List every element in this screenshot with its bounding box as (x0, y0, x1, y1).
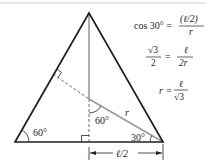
eq3-lhs: r = (159, 85, 172, 96)
eq2-lhs-denominator: 2 (151, 58, 156, 68)
equation-2: √3 2 = ℓ 2r (146, 45, 193, 68)
angle-arc-bottom-right (150, 136, 152, 143)
angle-arc-bottom-left (22, 130, 29, 142)
equation-3: r = ℓ √3 (159, 79, 188, 102)
right-angle-marker-side (57, 69, 62, 78)
equation-1: cos 30° = (ℓ/2) r (134, 14, 204, 37)
perpendicular-dashed (53, 74, 89, 99)
angle-label-bottom-right: 30° (131, 132, 145, 143)
eq2-rhs-numerator: ℓ (184, 45, 188, 55)
eq2-rhs-denominator: 2r (179, 58, 188, 68)
eq1-lhs: cos 30° = (134, 20, 172, 31)
dimension-arrow-right (156, 151, 162, 155)
eq1-numerator: (ℓ/2) (180, 14, 198, 25)
angle-arc-center (89, 106, 101, 113)
eq2-lhs-numerator: √3 (148, 45, 158, 55)
eq1-denominator: r (189, 27, 193, 37)
eq2-equals: = (165, 51, 171, 62)
diagram-canvas: 60° 60° 30° r ℓ/2 cos 30° = (ℓ/2) r √3 2… (0, 0, 212, 167)
angle-label-bottom-left: 60° (33, 127, 47, 138)
eq3-denominator: √3 (174, 92, 184, 102)
radius-label: r (125, 107, 129, 118)
half-side-label: ℓ/2 (116, 148, 128, 159)
angle-label-center: 60° (95, 115, 109, 126)
eq3-numerator: ℓ (179, 79, 183, 89)
right-angle-marker-base (82, 136, 90, 143)
dimension-arrow-left (90, 151, 96, 155)
